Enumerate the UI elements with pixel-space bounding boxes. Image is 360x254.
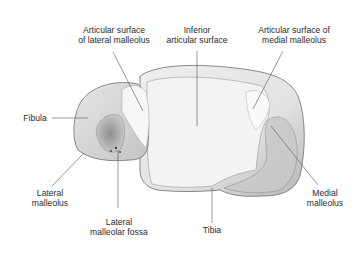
label-line: malleolus — [28, 198, 72, 208]
label-lateral-malleolar-fossa: Lateral malleolar fossa — [84, 217, 154, 237]
label-line: Tibia — [196, 225, 228, 235]
label-line: malleolus — [302, 198, 348, 208]
label-line: Articular surface of — [244, 25, 344, 35]
label-articular-surface-medial-malleolus: Articular surface of medial malleolus — [244, 25, 344, 45]
label-line: articular surface — [150, 35, 244, 45]
leader-line-lat-malleolus — [52, 153, 84, 186]
label-line: Medial — [302, 188, 348, 198]
foramen-dot — [119, 151, 121, 153]
label-tibia: Tibia — [196, 225, 228, 235]
label-line: of lateral malleolus — [64, 35, 164, 45]
label-line: Lateral — [28, 188, 72, 198]
foramen-dot — [115, 147, 117, 149]
label-articular-surface-lateral-malleolus: Articular surface of lateral malleolus — [64, 25, 164, 45]
label-line: malleolar fossa — [84, 227, 154, 237]
label-line: medial malleolus — [244, 35, 344, 45]
label-line: Lateral — [84, 217, 154, 227]
label-line: Fibula — [20, 113, 50, 123]
label-inferior-articular-surface: Inferior articular surface — [150, 25, 244, 45]
foramen-dot — [110, 150, 112, 152]
label-fibula: Fibula — [20, 113, 50, 123]
label-line: Articular surface — [64, 25, 164, 35]
label-lateral-malleolus: Lateral malleolus — [28, 188, 72, 208]
label-medial-malleolus: Medial malleolus — [302, 188, 348, 208]
label-line: Inferior — [150, 25, 244, 35]
